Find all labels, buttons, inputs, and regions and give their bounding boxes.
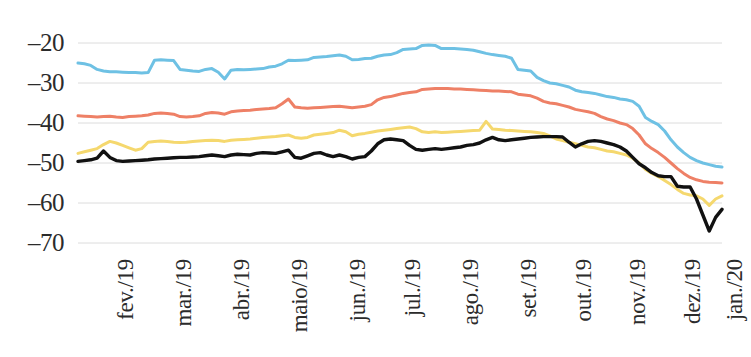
y-axis-tick: –70 bbox=[28, 229, 64, 257]
y-axis-tick: –50 bbox=[28, 149, 64, 177]
x-axis-tick: fev./19 bbox=[113, 259, 139, 320]
y-axis-tick: –20 bbox=[28, 29, 64, 57]
line-series_3 bbox=[78, 121, 722, 205]
y-axis-tick: –40 bbox=[28, 109, 64, 137]
x-axis-tick: jan./20 bbox=[722, 259, 748, 320]
x-axis-tick: set./19 bbox=[516, 259, 542, 318]
chart-figure: –20–30–40–50–60–70 fev./19mar./19abr./19… bbox=[0, 0, 751, 357]
y-axis-tick: –30 bbox=[28, 69, 64, 97]
line-series_4 bbox=[78, 137, 722, 231]
x-axis-tick: ago./19 bbox=[458, 259, 484, 325]
x-axis-tick: maio/19 bbox=[287, 259, 313, 332]
x-axis-tick-labels: fev./19mar./19abr./19maio/19jun./19jul./… bbox=[78, 243, 722, 357]
x-axis-tick: nov./19 bbox=[625, 259, 651, 325]
plot-area bbox=[78, 43, 722, 243]
x-axis-tick: jul./19 bbox=[400, 259, 426, 316]
y-axis-tick-labels: –20–30–40–50–60–70 bbox=[0, 0, 72, 357]
series-lines bbox=[78, 43, 722, 243]
y-axis-tick: –60 bbox=[28, 189, 64, 217]
x-axis-tick: abr./19 bbox=[229, 259, 255, 320]
x-axis-tick: dez./19 bbox=[680, 259, 706, 324]
x-axis-tick: mar./19 bbox=[171, 259, 197, 327]
x-axis-tick: out./19 bbox=[571, 259, 597, 321]
x-axis-tick: jun./19 bbox=[345, 259, 371, 321]
line-series_2 bbox=[78, 89, 722, 183]
